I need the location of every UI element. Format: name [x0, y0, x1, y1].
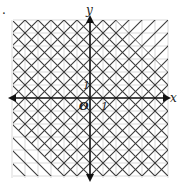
- y-axis-label: y: [86, 4, 93, 16]
- x-tick-label: 1: [101, 101, 108, 112]
- x-axis-label: x: [170, 92, 177, 104]
- y-tick-label: 1: [83, 80, 90, 91]
- figure-marker: .: [2, 4, 6, 16]
- origin-label: O: [79, 101, 89, 112]
